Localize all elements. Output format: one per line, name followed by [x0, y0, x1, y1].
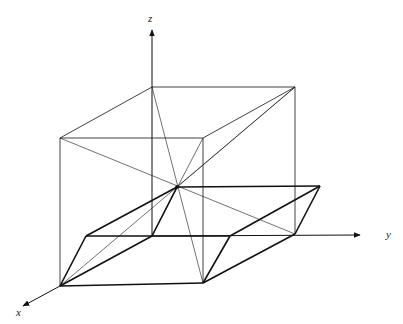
sheared-solid — [60, 186, 320, 286]
x-axis-label: x — [15, 306, 21, 318]
x-axis — [23, 286, 60, 306]
y-axis-label: y — [385, 228, 391, 240]
center-point — [175, 185, 179, 189]
cube-projection-diagram: z y x — [0, 0, 403, 324]
axes — [23, 30, 360, 306]
z-axis-label: z — [147, 12, 153, 24]
